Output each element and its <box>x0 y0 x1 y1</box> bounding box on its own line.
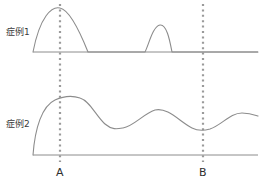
figure-canvas <box>0 0 262 185</box>
case2-waveform-curve <box>33 96 258 155</box>
marker-b-label: B <box>199 167 207 178</box>
case2-series-label: 症例2 <box>6 120 30 129</box>
clinical-waveform-figure: 症例1 症例2 A B <box>0 0 262 185</box>
case1-series-label: 症例1 <box>6 28 30 37</box>
marker-a-label: A <box>56 167 64 178</box>
case1-waveform-curve <box>33 8 258 52</box>
